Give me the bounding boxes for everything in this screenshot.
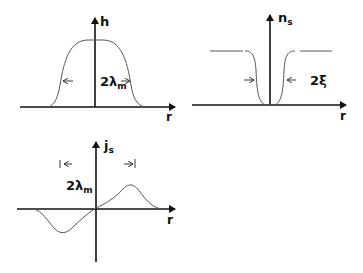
js-axis-label: js — [103, 138, 114, 155]
r-axis-label: r — [167, 213, 173, 227]
panel-js: js r 2λm — [17, 138, 175, 262]
diagram-canvas: h r 2λm ns r 2ξ js r 2λm — [0, 0, 363, 273]
lambda-annotation: 2λm — [100, 74, 127, 91]
h-curve — [48, 40, 145, 107]
r-axis-label: r — [340, 109, 346, 123]
h-axis-label: h — [100, 14, 109, 29]
xi-annotation: 2ξ — [310, 73, 327, 88]
r-axis-label: r — [166, 110, 172, 124]
panel-h: h r 2λm — [20, 14, 175, 124]
panel-ns: ns r 2ξ — [192, 10, 346, 123]
ns-axis-label: ns — [278, 10, 293, 27]
lambda-annotation: 2λm — [66, 178, 93, 195]
